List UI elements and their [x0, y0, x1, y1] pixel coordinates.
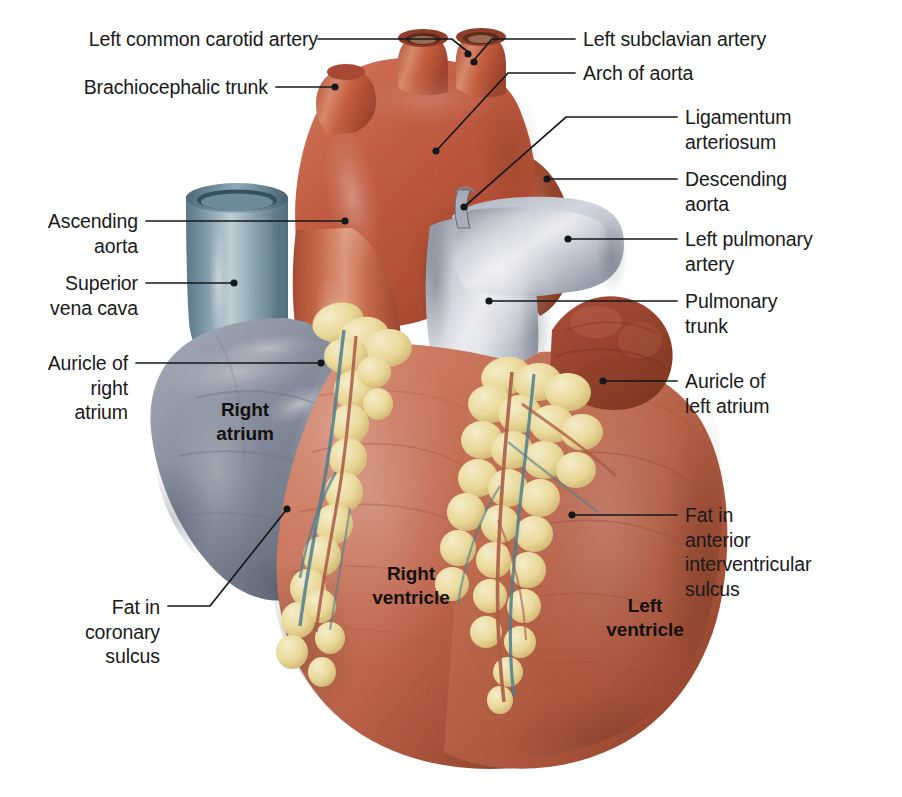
dot-brachiocephalic-trunk — [331, 83, 338, 90]
dot-descending-aorta — [543, 175, 550, 182]
label-auricle-of-left-atrium: Auricle of left atrium — [685, 369, 900, 418]
label-fat-in-anterior-interventricular-sulcus: Fat in anterior interventricular sulcus — [685, 503, 902, 601]
label-left-pulmonary-artery: Left pulmonary artery — [685, 227, 900, 276]
heart-anatomy-figure: Left common carotid artery Brachiocephal… — [0, 0, 902, 797]
dot-left-common-carotid-artery — [464, 50, 471, 57]
dot-ascending-aorta — [341, 217, 348, 224]
dot-arch-of-aorta — [432, 147, 439, 154]
label-fat-in-coronary-sulcus: Fat in coronary sulcus — [8, 595, 160, 669]
dot-auricle-of-left-atrium — [599, 377, 606, 384]
label-superior-vena-cava: Superior vena cava — [8, 271, 138, 320]
label-ascending-aorta: Ascending aorta — [8, 209, 138, 258]
label-ligamentum-arteriosum: Ligamentum arteriosum — [685, 105, 900, 154]
dot-pulmonary-trunk — [485, 297, 492, 304]
label-arch-of-aorta: Arch of aorta — [583, 61, 895, 86]
dot-ligamentum-arteriosum — [460, 203, 467, 210]
label-left-ventricle: Left ventricle — [585, 594, 705, 642]
dot-superior-vena-cava — [230, 279, 237, 286]
dot-left-subclavian-artery — [470, 58, 477, 65]
dot-left-pulmonary-artery — [564, 235, 571, 242]
dot-fat-in-anterior-interventricular-sulcus — [568, 511, 575, 518]
label-right-ventricle: Right ventricle — [351, 562, 471, 610]
label-left-common-carotid-artery: Left common carotid artery — [8, 27, 318, 52]
label-descending-aorta: Descending aorta — [685, 167, 900, 216]
label-pulmonary-trunk: Pulmonary trunk — [685, 289, 900, 338]
label-left-subclavian-artery: Left subclavian artery — [583, 27, 895, 52]
label-brachiocephalic-trunk: Brachiocephalic trunk — [8, 75, 268, 100]
label-right-atrium: Right atrium — [185, 398, 305, 446]
dot-fat-in-coronary-sulcus — [283, 505, 290, 512]
label-auricle-of-right-atrium: Auricle of right atrium — [8, 351, 128, 425]
dot-auricle-of-right-atrium — [317, 359, 324, 366]
